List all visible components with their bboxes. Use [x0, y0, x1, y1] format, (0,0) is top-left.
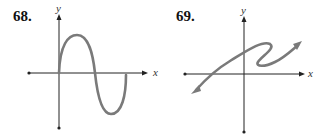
- graph-69-y-axis-arrow-icon: [242, 16, 247, 22]
- graphs-canvas: [0, 0, 331, 138]
- graph-68-curve: [59, 35, 126, 114]
- graph-68-x-axis-left-end-icon: [27, 71, 30, 74]
- graph-69-curve: [196, 43, 298, 90]
- graph-69-y-axis-bottom-end-icon: [242, 130, 245, 133]
- graph-68-y-axis-bottom-end-icon: [57, 126, 60, 129]
- graph-68-y-axis-arrow-icon: [57, 14, 62, 20]
- graph-69-x-axis-left-end-icon: [183, 72, 186, 75]
- graph-68-x-axis-arrow-icon: [142, 71, 148, 76]
- graph-68: [27, 14, 148, 130]
- graph-69-x-axis-arrow-icon: [299, 72, 305, 77]
- graph-69: [183, 16, 305, 134]
